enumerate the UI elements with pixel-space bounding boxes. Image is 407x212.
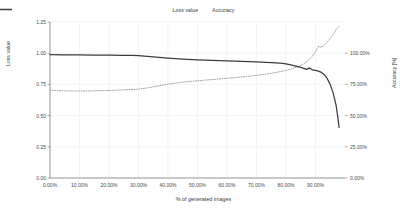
data-series: [50, 26, 339, 127]
series-line-loss-value: [50, 26, 339, 91]
chart-figure: Loss value Accuracy Loss value Accuracy …: [0, 0, 407, 212]
plot-area: [0, 0, 407, 212]
grid-lines: [50, 22, 345, 178]
